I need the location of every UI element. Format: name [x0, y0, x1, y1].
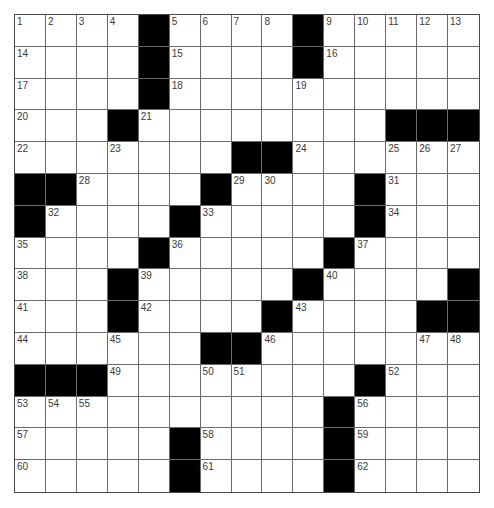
- grid-cell[interactable]: [262, 365, 293, 397]
- grid-cell[interactable]: [355, 47, 386, 79]
- grid-cell[interactable]: [232, 110, 263, 142]
- grid-cell[interactable]: [262, 428, 293, 460]
- grid-cell[interactable]: 5: [170, 15, 201, 47]
- grid-cell[interactable]: [386, 238, 417, 270]
- grid-cell[interactable]: [46, 238, 77, 270]
- grid-cell[interactable]: 32: [46, 206, 77, 238]
- grid-cell[interactable]: [448, 428, 479, 460]
- grid-cell[interactable]: 4: [108, 15, 139, 47]
- grid-cell[interactable]: [293, 460, 324, 492]
- grid-cell[interactable]: 33: [201, 206, 232, 238]
- grid-cell[interactable]: [448, 365, 479, 397]
- grid-cell[interactable]: [108, 428, 139, 460]
- grid-cell[interactable]: [108, 174, 139, 206]
- grid-cell[interactable]: [170, 397, 201, 429]
- grid-cell[interactable]: [386, 47, 417, 79]
- grid-cell[interactable]: [355, 269, 386, 301]
- grid-cell[interactable]: [108, 206, 139, 238]
- grid-cell[interactable]: 52: [386, 365, 417, 397]
- grid-cell[interactable]: [293, 110, 324, 142]
- grid-cell[interactable]: [108, 460, 139, 492]
- grid-cell[interactable]: [448, 397, 479, 429]
- grid-cell[interactable]: [46, 110, 77, 142]
- grid-cell[interactable]: 21: [139, 110, 170, 142]
- grid-cell[interactable]: [417, 397, 448, 429]
- grid-cell[interactable]: 46: [262, 333, 293, 365]
- grid-cell[interactable]: [77, 428, 108, 460]
- grid-cell[interactable]: 27: [448, 142, 479, 174]
- grid-cell[interactable]: [46, 269, 77, 301]
- grid-cell[interactable]: [355, 333, 386, 365]
- grid-cell[interactable]: [201, 238, 232, 270]
- grid-cell[interactable]: [170, 365, 201, 397]
- grid-cell[interactable]: [324, 174, 355, 206]
- grid-cell[interactable]: 10: [355, 15, 386, 47]
- grid-cell[interactable]: 1: [15, 15, 46, 47]
- grid-cell[interactable]: 15: [170, 47, 201, 79]
- grid-cell[interactable]: 58: [201, 428, 232, 460]
- grid-cell[interactable]: [417, 174, 448, 206]
- grid-cell[interactable]: [448, 47, 479, 79]
- grid-cell[interactable]: [386, 428, 417, 460]
- grid-cell[interactable]: [324, 365, 355, 397]
- grid-cell[interactable]: [417, 460, 448, 492]
- grid-cell[interactable]: 50: [201, 365, 232, 397]
- grid-cell[interactable]: 42: [139, 301, 170, 333]
- grid-cell[interactable]: [262, 206, 293, 238]
- grid-cell[interactable]: [77, 269, 108, 301]
- grid-cell[interactable]: 53: [15, 397, 46, 429]
- grid-cell[interactable]: 25: [386, 142, 417, 174]
- grid-cell[interactable]: [77, 301, 108, 333]
- grid-cell[interactable]: [262, 79, 293, 111]
- grid-cell[interactable]: [293, 238, 324, 270]
- grid-cell[interactable]: [417, 428, 448, 460]
- grid-cell[interactable]: [201, 269, 232, 301]
- grid-cell[interactable]: [201, 142, 232, 174]
- grid-cell[interactable]: 34: [386, 206, 417, 238]
- grid-cell[interactable]: 40: [324, 269, 355, 301]
- grid-cell[interactable]: 61: [201, 460, 232, 492]
- grid-cell[interactable]: [293, 206, 324, 238]
- grid-cell[interactable]: [46, 79, 77, 111]
- grid-cell[interactable]: [170, 174, 201, 206]
- grid-cell[interactable]: 20: [15, 110, 46, 142]
- grid-cell[interactable]: 41: [15, 301, 46, 333]
- grid-cell[interactable]: 17: [15, 79, 46, 111]
- grid-cell[interactable]: 18: [170, 79, 201, 111]
- grid-cell[interactable]: [417, 206, 448, 238]
- grid-cell[interactable]: [324, 110, 355, 142]
- grid-cell[interactable]: [293, 428, 324, 460]
- grid-cell[interactable]: [170, 142, 201, 174]
- grid-cell[interactable]: [417, 238, 448, 270]
- grid-cell[interactable]: [77, 238, 108, 270]
- grid-cell[interactable]: [386, 79, 417, 111]
- grid-cell[interactable]: [293, 365, 324, 397]
- grid-cell[interactable]: 38: [15, 269, 46, 301]
- grid-cell[interactable]: [201, 397, 232, 429]
- grid-cell[interactable]: [139, 142, 170, 174]
- grid-cell[interactable]: [324, 333, 355, 365]
- grid-cell[interactable]: [417, 365, 448, 397]
- grid-cell[interactable]: [46, 301, 77, 333]
- grid-cell[interactable]: [324, 79, 355, 111]
- grid-cell[interactable]: [46, 333, 77, 365]
- grid-cell[interactable]: [77, 142, 108, 174]
- grid-cell[interactable]: [262, 269, 293, 301]
- grid-cell[interactable]: 60: [15, 460, 46, 492]
- grid-cell[interactable]: 31: [386, 174, 417, 206]
- grid-cell[interactable]: 62: [355, 460, 386, 492]
- grid-cell[interactable]: [170, 110, 201, 142]
- grid-cell[interactable]: 29: [232, 174, 263, 206]
- grid-cell[interactable]: [293, 174, 324, 206]
- grid-cell[interactable]: [448, 206, 479, 238]
- grid-cell[interactable]: [417, 47, 448, 79]
- grid-cell[interactable]: 43: [293, 301, 324, 333]
- grid-cell[interactable]: [448, 79, 479, 111]
- grid-cell[interactable]: [386, 269, 417, 301]
- grid-cell[interactable]: 51: [232, 365, 263, 397]
- grid-cell[interactable]: [201, 110, 232, 142]
- grid-cell[interactable]: [355, 110, 386, 142]
- grid-cell[interactable]: [232, 47, 263, 79]
- grid-cell[interactable]: [448, 460, 479, 492]
- grid-cell[interactable]: 44: [15, 333, 46, 365]
